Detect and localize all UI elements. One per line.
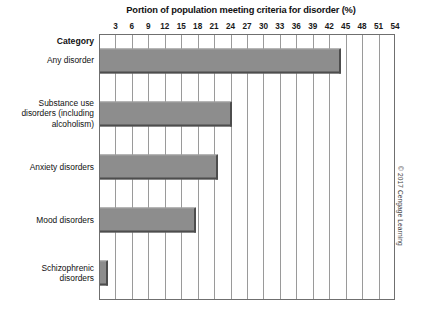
- bar-3: [100, 208, 196, 233]
- category-label-3: Mood disorders: [0, 215, 94, 226]
- category-label-4: Schizophrenicdisorders: [0, 263, 94, 284]
- bar-4: [100, 261, 108, 286]
- bar-row: [99, 194, 395, 247]
- bar-row: [99, 87, 395, 140]
- x-tick-label-54: 54: [384, 22, 406, 31]
- category-label-line: Any disorder: [0, 55, 94, 66]
- category-label-line: Schizophrenic: [0, 263, 94, 274]
- bar-row: [99, 140, 395, 193]
- category-axis-title: Category: [57, 36, 94, 46]
- bar-2: [100, 154, 218, 179]
- category-label-line: disorders: [0, 273, 94, 284]
- chart-title: Portion of population meeting criteria f…: [76, 5, 406, 16]
- category-label-line: Anxiety disorders: [0, 162, 94, 173]
- bar-row: [99, 247, 395, 300]
- figure: Portion of population meeting criteria f…: [0, 0, 432, 317]
- category-label-2: Anxiety disorders: [0, 162, 94, 173]
- copyright-credit: © 2017 Cengage Learning: [397, 166, 404, 246]
- category-label-line: Substance use: [0, 98, 94, 109]
- bar-1: [100, 101, 232, 126]
- bars-layer: [99, 34, 395, 300]
- category-label-line: Mood disorders: [0, 215, 94, 226]
- bar-row: [99, 34, 395, 87]
- bar-0: [100, 48, 341, 73]
- category-label-line: alcoholism): [0, 119, 94, 130]
- category-label-1: Substance usedisorders (includingalcohol…: [0, 98, 94, 130]
- category-label-line: disorders (including: [0, 108, 94, 119]
- category-label-0: Any disorder: [0, 55, 94, 66]
